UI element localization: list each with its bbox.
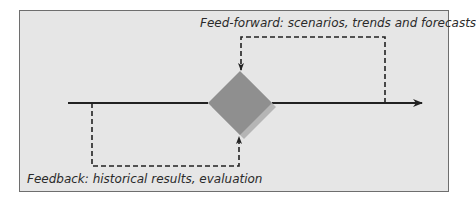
feed-forward-loop [241,37,385,103]
feedback-label: Feedback: historical results, evaluation [27,172,262,186]
feedback-loop [92,103,239,166]
decision-diamond [208,71,272,135]
feed-forward-label: Feed-forward: scenarios, trends and fore… [200,16,476,30]
